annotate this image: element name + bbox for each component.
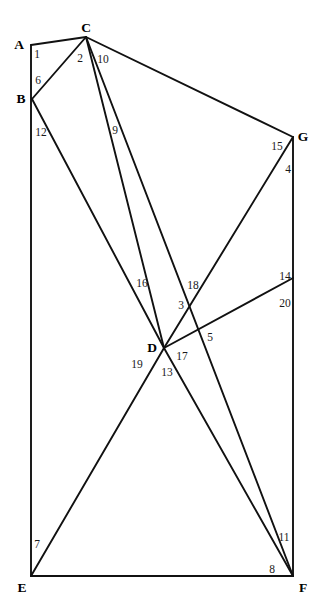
angle-label-16: 16 — [136, 278, 148, 290]
angle-label-6: 6 — [35, 75, 41, 87]
vertex-label-D: D — [147, 341, 157, 355]
segment-CD — [86, 37, 164, 348]
angle-label-4: 4 — [285, 164, 291, 176]
segment-DE — [31, 348, 164, 576]
angle-label-5: 5 — [207, 332, 213, 344]
angle-label-3: 3 — [178, 300, 184, 312]
angle-label-17: 17 — [176, 351, 188, 363]
vertex-label-C: C — [81, 21, 91, 35]
angle-label-8: 8 — [269, 564, 275, 576]
angle-label-20: 20 — [279, 298, 291, 310]
vertex-label-G: G — [298, 130, 309, 144]
segment-layer — [31, 37, 293, 576]
segment-BD — [32, 99, 164, 348]
angle-label-14: 14 — [279, 271, 291, 283]
segment-CG — [86, 37, 293, 137]
geometry-canvas — [0, 0, 321, 612]
angle-label-2: 2 — [77, 53, 83, 65]
angle-label-11: 11 — [278, 532, 289, 544]
angle-label-13: 13 — [161, 367, 173, 379]
segment-DF — [164, 348, 293, 576]
vertex-label-B: B — [16, 92, 25, 106]
vertex-label-A: A — [14, 38, 24, 52]
segment-BC — [32, 37, 86, 99]
angle-label-15: 15 — [271, 141, 283, 153]
angle-label-10: 10 — [97, 54, 109, 66]
angle-label-7: 7 — [34, 539, 40, 551]
segment-AC — [31, 37, 86, 45]
angle-label-1: 1 — [34, 49, 40, 61]
vertex-label-E: E — [17, 581, 26, 595]
geometry-figure: ABCGDEF1612210915416183142051719137118 — [0, 0, 321, 612]
vertex-label-F: F — [299, 581, 307, 595]
angle-label-19: 19 — [131, 359, 143, 371]
angle-label-9: 9 — [112, 125, 118, 137]
angle-label-18: 18 — [187, 280, 199, 292]
segment-GD — [164, 137, 293, 348]
angle-label-12: 12 — [35, 127, 47, 139]
